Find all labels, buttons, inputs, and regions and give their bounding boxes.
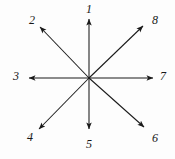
ray-label-7: 7 <box>160 70 166 82</box>
ray-label-4: 4 <box>27 131 33 143</box>
vector-star-diagram: 1 2 3 4 5 6 7 8 <box>0 0 175 159</box>
ray-label-5: 5 <box>86 138 92 150</box>
ray-6-down-right <box>89 78 144 127</box>
ray-label-1: 1 <box>86 3 92 15</box>
ray-label-8: 8 <box>152 14 158 26</box>
ray-4-down-left <box>39 78 89 129</box>
ray-label-3: 3 <box>13 70 19 82</box>
ray-2-up-left <box>40 27 89 78</box>
ray-8-up-right <box>89 26 143 78</box>
ray-label-6: 6 <box>152 132 158 144</box>
ray-label-2: 2 <box>29 14 35 26</box>
